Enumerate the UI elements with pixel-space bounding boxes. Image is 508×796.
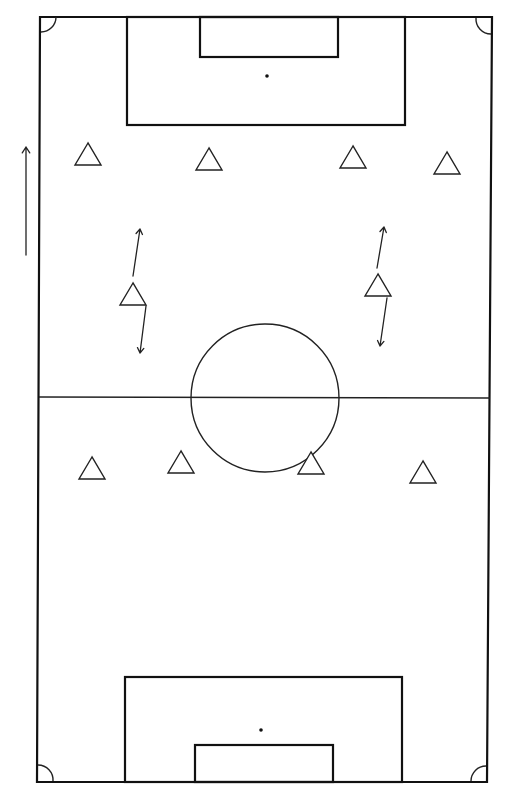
bottom-goal-area bbox=[195, 745, 333, 782]
corner-arc-bottom-right bbox=[471, 766, 486, 781]
pitch-boundary bbox=[37, 17, 492, 782]
bottom-penalty-spot bbox=[259, 728, 263, 732]
cone-triangle-icon bbox=[298, 452, 324, 474]
cone-triangle-icon bbox=[365, 274, 391, 296]
arrow-up-icon bbox=[22, 147, 30, 255]
cone-triangle-icon bbox=[340, 146, 366, 168]
corner-arc-top-right bbox=[476, 18, 491, 34]
movement-arrow-icon bbox=[377, 227, 386, 268]
cone-triangle-icon bbox=[410, 461, 436, 483]
corner-arc-bottom-left bbox=[38, 765, 53, 781]
cone-triangle-icon bbox=[434, 152, 460, 174]
cone-markers bbox=[75, 143, 460, 483]
movement-arrow-icon bbox=[133, 229, 142, 276]
soccer-pitch-diagram bbox=[0, 0, 508, 796]
cone-triangle-icon bbox=[120, 283, 146, 305]
halfway-line bbox=[39, 397, 490, 398]
cone-triangle-icon bbox=[168, 451, 194, 473]
cone-triangle-icon bbox=[196, 148, 222, 170]
cone-triangle-icon bbox=[79, 457, 105, 479]
top-goal-area bbox=[200, 17, 338, 57]
corner-arc-top-left bbox=[41, 17, 56, 32]
movement-arrow-icon bbox=[378, 298, 387, 346]
cone-triangle-icon bbox=[75, 143, 101, 165]
top-penalty-area bbox=[127, 17, 405, 125]
movement-arrows bbox=[133, 227, 387, 353]
bottom-penalty-area bbox=[125, 677, 402, 782]
movement-arrow-icon bbox=[137, 306, 146, 353]
top-penalty-spot bbox=[265, 74, 269, 78]
direction-of-play-arrow-icon bbox=[22, 147, 30, 255]
